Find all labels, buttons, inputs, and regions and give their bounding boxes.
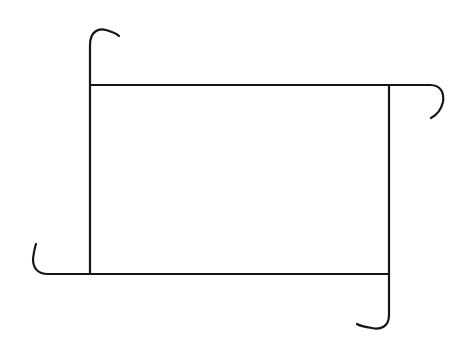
figure-svg: Rectangle with curled corner hooks A bla…: [0, 0, 470, 350]
drawing-canvas: Rectangle with curled corner hooks A bla…: [0, 0, 470, 350]
canvas-background: [0, 0, 470, 350]
